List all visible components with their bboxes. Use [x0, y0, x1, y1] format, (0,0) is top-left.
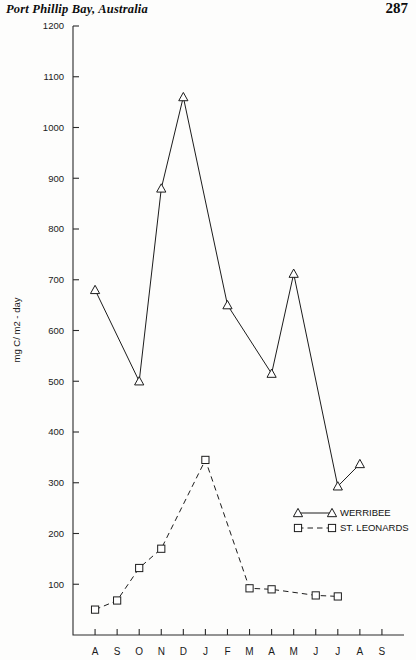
triangle-icon: [135, 377, 144, 385]
y-tick-label: 1000: [43, 122, 64, 133]
x-tick-label: M: [289, 646, 297, 657]
series-line-st-leonards: [95, 460, 338, 610]
square-icon: [312, 592, 319, 599]
x-tick-label: S: [114, 646, 121, 657]
square-icon: [136, 564, 143, 571]
y-tick-label: 500: [48, 376, 64, 387]
y-tick-label: 900: [48, 173, 64, 184]
x-tick-label: M: [245, 646, 253, 657]
legend-label-0: WERRIBEE: [340, 507, 391, 518]
y-tick-label: 800: [48, 223, 64, 234]
y-tick-label: 700: [48, 274, 64, 285]
figure-page: Port Phillip Bay, Australia 287 12001100…: [0, 0, 416, 660]
triangle-icon: [355, 459, 364, 467]
x-tick-label: J: [203, 646, 208, 657]
y-tick-label: 400: [48, 426, 64, 437]
y-tick-label: 1100: [44, 71, 64, 82]
y-tick-label: 200: [48, 528, 64, 539]
legend-label-1: ST. LEONARDS: [340, 522, 409, 533]
triangle-icon: [157, 184, 166, 192]
x-axis-ticks: [95, 629, 382, 635]
square-icon: [91, 606, 98, 613]
x-axis-tick-labels: ASONDJFMAMJJAS: [92, 646, 386, 657]
square-icon: [158, 545, 165, 552]
y-tick-label: 600: [48, 325, 64, 336]
square-icon: [268, 586, 275, 593]
axes-group: [73, 26, 404, 635]
square-icon: [328, 524, 335, 531]
x-tick-label: O: [135, 646, 143, 657]
y-axis-ticks: 120011001000900800700600500400300200100: [43, 20, 79, 589]
data-series-layer: [90, 92, 364, 613]
series-line-werribee: [95, 97, 360, 486]
y-axis-title: mg C/ m2 - day: [11, 297, 22, 362]
x-tick-label: F: [224, 646, 230, 657]
x-tick-label: A: [357, 646, 364, 657]
x-tick-label: N: [158, 646, 165, 657]
triangle-icon: [289, 269, 298, 277]
x-tick-label: J: [313, 646, 318, 657]
x-tick-label: J: [335, 646, 340, 657]
chart-legend: WERRIBEEST. LEONARDS: [293, 507, 408, 533]
y-tick-label: 100: [48, 579, 64, 590]
x-tick-label: A: [268, 646, 275, 657]
x-tick-label: D: [180, 646, 187, 657]
chart-svg: 120011001000900800700600500400300200100 …: [0, 0, 416, 660]
y-tick-label: 300: [48, 477, 64, 488]
axis-lines: [73, 26, 404, 635]
triangle-icon: [223, 301, 232, 309]
triangle-icon: [90, 285, 99, 293]
triangle-icon: [179, 92, 188, 100]
x-tick-label: A: [92, 646, 99, 657]
x-tick-label: S: [379, 646, 386, 657]
chart-plot-area: 120011001000900800700600500400300200100 …: [0, 0, 416, 660]
square-icon: [246, 585, 253, 592]
square-icon: [202, 456, 209, 463]
square-icon: [334, 593, 341, 600]
square-icon: [114, 597, 121, 604]
triangle-icon: [267, 369, 276, 377]
y-tick-label: 1200: [43, 20, 64, 31]
square-icon: [294, 524, 301, 531]
